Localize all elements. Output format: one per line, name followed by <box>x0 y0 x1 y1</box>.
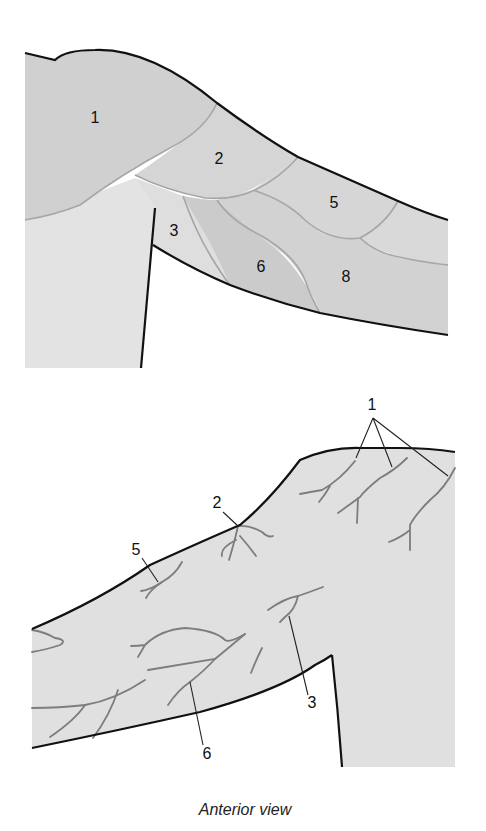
top-panel-dermatomes: 1 2 3 5 6 8 <box>25 50 448 368</box>
figure-caption: Anterior view <box>198 801 293 818</box>
nerve-label-3: 3 <box>308 694 317 711</box>
anatomy-figure: 1 2 3 5 6 8 <box>0 0 486 831</box>
nerve-label-2: 2 <box>213 494 222 511</box>
nerve-label-6: 6 <box>203 745 212 762</box>
label-5: 5 <box>330 194 339 211</box>
label-1: 1 <box>91 109 100 126</box>
bottom-panel-nerves: 1 2 3 5 6 Anterior view <box>32 396 455 818</box>
nerve-label-1: 1 <box>368 396 377 413</box>
label-3: 3 <box>170 222 179 239</box>
label-6: 6 <box>257 258 266 275</box>
nerve-label-5: 5 <box>132 541 141 558</box>
label-2: 2 <box>215 150 224 167</box>
label-8: 8 <box>342 268 351 285</box>
arm-skin <box>32 448 455 767</box>
